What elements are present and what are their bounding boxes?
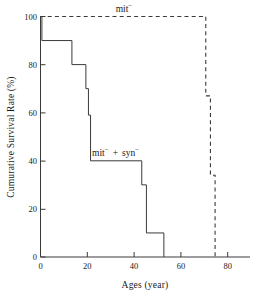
series-line-mit-minus-plus-syn-minus: [41, 17, 164, 258]
x-axis-tick-labels: 0 20 40 60 80: [38, 261, 232, 271]
x-axis-ticks: [41, 252, 228, 257]
series-label-mit-text: mit: [116, 4, 129, 14]
series-label-syn-mit-superscript: −: [105, 146, 109, 154]
series-label-mit-minus: mit−: [116, 2, 133, 14]
series-label-plus-sign: +: [113, 148, 118, 158]
series-label-mit-superscript: −: [128, 2, 132, 10]
y-tick-label-40: 40: [29, 156, 38, 166]
y-axis-tick-labels: 100 80 60 40 20 0: [24, 12, 37, 263]
y-axis-title: Cumurative Survival Rate (%): [6, 76, 17, 197]
survival-curve-chart: 100 80 60 40 20 0 0 20 40 60 80: [0, 0, 262, 298]
svg-text:mit−: mit−: [116, 2, 133, 14]
y-tick-label-80: 80: [29, 60, 38, 70]
y-tick-label-20: 20: [29, 204, 38, 214]
x-tick-label-60: 60: [177, 261, 186, 271]
series-label-mit-syn: mit−+syn−: [92, 146, 139, 158]
y-axis-ticks: [41, 17, 46, 258]
x-axis-title: Ages (year): [122, 280, 169, 291]
y-tick-label-60: 60: [29, 108, 38, 118]
series-line-mit-minus: [41, 17, 216, 258]
chart-figure: 100 80 60 40 20 0 0 20 40 60 80: [0, 0, 262, 298]
x-tick-label-0: 0: [38, 261, 42, 271]
x-tick-label-20: 20: [83, 261, 92, 271]
series-label-syn-superscript: −: [135, 146, 139, 154]
y-tick-label-0: 0: [33, 252, 37, 262]
series-label-syn-mit-text: mit: [92, 148, 105, 158]
x-tick-label-80: 80: [223, 261, 232, 271]
y-tick-label-100: 100: [24, 12, 37, 22]
series-label-syn-text: syn: [122, 148, 135, 158]
x-tick-label-40: 40: [130, 261, 139, 271]
svg-text:mit−+syn−: mit−+syn−: [92, 146, 139, 158]
